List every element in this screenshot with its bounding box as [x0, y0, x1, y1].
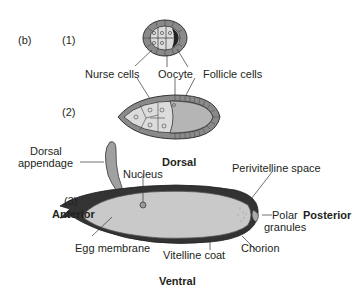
- stage2-label: (2): [62, 106, 75, 118]
- egg-membrane-label: Egg membrane: [75, 242, 150, 254]
- oocyte-label: Oocyte: [158, 68, 193, 80]
- nurse-cells-label: Nurse cells: [85, 68, 139, 80]
- stage2-egg-chamber: [118, 95, 220, 139]
- chorion-label: Chorion: [241, 242, 280, 254]
- dorsal-appendage-label-line1: Dorsal: [30, 145, 62, 157]
- dorsal-orientation-label: Dorsal: [162, 156, 196, 168]
- dorsal-appendage-label-line2: appendage: [18, 157, 73, 169]
- anterior-label: Anterior: [52, 208, 95, 220]
- vitelline-coat-label: Vitelline coat: [163, 249, 225, 261]
- panel-label: (b): [18, 34, 31, 46]
- ventral-orientation-label: Ventral: [159, 275, 196, 287]
- stage3-mature-egg: [60, 142, 258, 244]
- nucleus-label: Nucleus: [123, 168, 163, 180]
- follicle-cells-label: Follicle cells: [203, 68, 262, 80]
- stage3-label: (3): [64, 195, 77, 207]
- polar-granules-label-line1: Polar: [272, 209, 298, 221]
- perivitelline-space-label: Perivitelline space: [232, 162, 321, 174]
- stage1-egg-chamber: [143, 20, 187, 56]
- posterior-label: Posterior: [303, 209, 351, 221]
- polar-granules-label-line2: granules: [264, 221, 306, 233]
- stage1-label: (1): [62, 34, 75, 46]
